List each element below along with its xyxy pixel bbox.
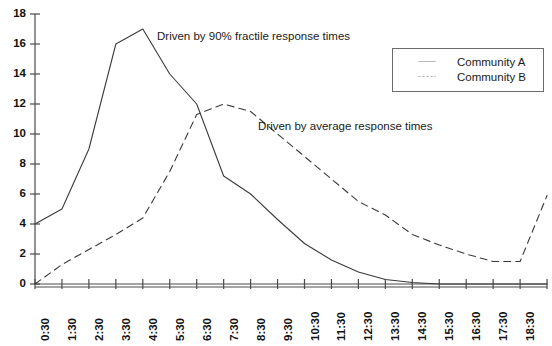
chart-annotation-label: Driven by 90% fractile response times xyxy=(157,31,350,43)
y-tick-label: 18 xyxy=(4,8,26,20)
x-tick-label: 2:30 xyxy=(94,318,106,341)
y-tick-label: 16 xyxy=(4,38,26,50)
legend-label-community-b: Community B xyxy=(453,71,526,83)
y-tick-label: 14 xyxy=(4,68,26,80)
y-tick-label: 4 xyxy=(4,218,26,230)
y-tick-label: 8 xyxy=(4,158,26,170)
y-tick-label: 12 xyxy=(4,98,26,110)
x-tick-label: 6:30 xyxy=(202,318,214,341)
x-tick-label: 7:30 xyxy=(229,318,241,341)
y-tick-label: 0 xyxy=(4,278,26,290)
legend-swatch-community-b xyxy=(401,76,453,77)
x-tick-label: 16:30 xyxy=(471,312,483,341)
x-tick-label: 17:30 xyxy=(498,312,510,341)
x-tick-label: 0:30 xyxy=(40,318,52,341)
y-tick-label: 10 xyxy=(4,128,26,140)
legend-label-community-a: Community A xyxy=(453,56,525,68)
legend-item: Community A xyxy=(401,54,533,69)
chart-container: 024681012141618 0:301:302:303:304:305:30… xyxy=(0,0,552,346)
x-tick-label: 18:30 xyxy=(525,312,537,341)
x-tick-label: 12:30 xyxy=(363,312,375,341)
x-tick-label: 14:30 xyxy=(417,312,429,341)
x-tick-label: 13:30 xyxy=(390,312,402,341)
x-tick-label: 10:30 xyxy=(310,312,322,341)
x-tick-label: 15:30 xyxy=(444,312,456,341)
legend-item: Community B xyxy=(401,69,533,84)
y-tick-label: 6 xyxy=(4,188,26,200)
x-tick-label: 1:30 xyxy=(67,318,79,341)
chart-annotation-label: Driven by average response times xyxy=(258,121,433,133)
x-tick-label: 9:30 xyxy=(283,318,295,341)
chart-legend: Community A Community B xyxy=(392,48,544,92)
x-tick-label: 4:30 xyxy=(148,318,160,341)
x-tick-label: 5:30 xyxy=(175,318,187,341)
y-tick-label: 2 xyxy=(4,248,26,260)
legend-swatch-community-a xyxy=(401,61,453,62)
x-tick-label: 8:30 xyxy=(256,318,268,341)
x-tick-label: 3:30 xyxy=(121,318,133,341)
x-tick-label: 11:30 xyxy=(336,312,348,341)
